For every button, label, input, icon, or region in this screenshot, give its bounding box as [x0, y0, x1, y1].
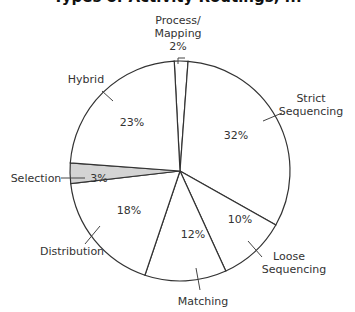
label-strict-pct: 32% [224, 129, 248, 142]
label-selection-pct: 3% [90, 172, 107, 185]
pie-chart: Process/ Mapping 2% Strict Sequencing 32… [0, 0, 355, 312]
label-loose-line1: Loose [273, 250, 305, 263]
label-process-line2: Mapping [154, 27, 201, 40]
label-distribution-pct: 18% [117, 204, 141, 217]
label-hybrid-pct: 23% [120, 116, 144, 129]
label-loose-pct: 10% [228, 213, 252, 226]
label-process-pct: 2% [169, 40, 186, 53]
label-loose-line2: Sequencing [262, 263, 327, 276]
label-distribution: Distribution [40, 245, 104, 258]
label-selection: Selection [11, 172, 62, 185]
label-hybrid: Hybrid [68, 73, 104, 86]
label-matching: Matching [178, 295, 229, 308]
label-strict-line1: Strict [296, 92, 326, 105]
label-process-line1: Process/ [155, 14, 201, 27]
label-matching-pct: 12% [181, 228, 205, 241]
label-strict-line2: Sequencing [279, 105, 344, 118]
